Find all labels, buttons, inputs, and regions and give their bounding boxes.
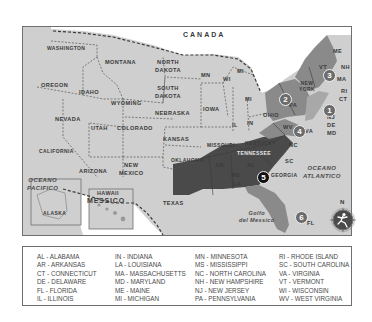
state-label-mi-lower: MI xyxy=(245,97,252,103)
mexico-label: MESSICO xyxy=(87,197,125,204)
legend-item: ME - MAINE xyxy=(115,287,186,295)
state-label-ma: MA xyxy=(337,77,347,83)
state-label-arizona: ARIZONA xyxy=(79,169,107,175)
compass-rose-icon xyxy=(326,200,360,244)
compass-north-label: N xyxy=(340,199,345,205)
state-label-nevada: NEVADA xyxy=(55,117,81,123)
state-label-montana: MONTANA xyxy=(105,60,136,66)
state-label-ct: CT xyxy=(339,97,347,103)
state-label-md: MD xyxy=(327,131,337,137)
state-label-kansas: KANSAS xyxy=(163,137,189,143)
south-dakota-line-2: DAKOTA xyxy=(155,94,181,100)
state-abbreviation-legend: AL - ALABAMA AR - ARKANSAS CT - CONNECTI… xyxy=(22,246,352,306)
state-label-washington: WASHINGTON xyxy=(47,46,85,51)
state-label-south-dakota: SOUTH DAKOTA xyxy=(155,86,181,99)
north-dakota-line-2: DAKOTA xyxy=(155,68,181,74)
legend-item: NJ - NEW JERSEY xyxy=(195,287,266,295)
legend-item: MA - MASSACHUSETTS xyxy=(115,270,186,278)
new-mexico-line-2: MEXICO xyxy=(119,171,143,177)
new-york-line-2: YORK xyxy=(299,87,315,92)
legend-item: MI - MICHIGAN xyxy=(115,295,186,303)
state-label-georgia: GEORGIA xyxy=(271,173,297,178)
state-label-fl: FL xyxy=(307,221,315,227)
pacific-line-1: OCEANO xyxy=(27,177,58,183)
legend-item: VT - VERMONT xyxy=(279,278,349,286)
atlantic-line-2: ATLANTICO xyxy=(303,173,341,179)
state-label-new-mexico: NEW MEXICO xyxy=(119,163,143,176)
legend-column-2: IN - INDIANA LA - LOUISIANA MA - MASSACH… xyxy=(115,253,186,303)
state-label-alaska: ALASKA xyxy=(43,211,66,216)
pacific-line-2: PACIFICO xyxy=(27,185,58,191)
state-label-nc: NC xyxy=(289,143,298,149)
state-label-ohio: OHIO xyxy=(263,113,279,119)
state-label-ms: MS xyxy=(231,173,240,179)
state-label-nebraska: NEBRASKA xyxy=(155,111,190,117)
pacific-ocean-label: OCEANO PACIFICO xyxy=(27,177,58,191)
state-label-ri: RI xyxy=(341,89,347,95)
state-label-sc: SC xyxy=(285,159,294,165)
region-badge-3: 3 xyxy=(323,69,336,82)
region-badge-2: 2 xyxy=(279,93,292,106)
state-label-la: LA xyxy=(233,182,241,188)
legend-item: LA - LOUISIANA xyxy=(115,261,186,269)
legend-item: WV - WEST VIRGINIA xyxy=(279,295,349,303)
state-label-al: AL xyxy=(247,163,255,169)
new-mexico-line-1: NEW xyxy=(119,163,143,169)
legend-column-4: RI - RHODE ISLAND SC - SOUTH CAROLINA VA… xyxy=(279,253,349,303)
state-label-me: ME xyxy=(333,49,342,55)
legend-item: SC - SOUTH CAROLINA xyxy=(279,261,349,269)
state-label-oklahoma: OKLAHOMA xyxy=(171,158,204,163)
state-label-ar: AR xyxy=(215,163,224,169)
legend-item: CT - CONNECTICUT xyxy=(37,270,97,278)
region-badge-4: 4 xyxy=(293,125,306,138)
region-badge-5: 5 xyxy=(257,171,270,184)
us-map: CANADA MESSICO OCEANO PACIFICO OCEANO AT… xyxy=(22,26,352,236)
state-label-idaho: IDAHO xyxy=(79,90,99,96)
legend-item: NH - NEW HAMPSHIRE xyxy=(195,278,266,286)
legend-item: IN - INDIANA xyxy=(115,253,186,261)
state-label-wyoming: WYOMING xyxy=(111,101,142,107)
gulf-line-2: del Messico xyxy=(239,218,275,224)
canada-label: CANADA xyxy=(183,31,225,38)
legend-item: FL - FLORIDA xyxy=(37,287,97,295)
legend-item: AL - ALABAMA xyxy=(37,253,97,261)
atlantic-ocean-label: OCEANO ATLANTICO xyxy=(303,165,341,179)
legend-column-3: MN - MINNESOTA MS - MISSISSIPPI NC - NOR… xyxy=(195,253,266,303)
legend-item: MS - MISSISSIPPI xyxy=(195,261,266,269)
region-badge-1: 1 xyxy=(323,104,336,117)
north-dakota-line-1: NORTH xyxy=(155,60,181,66)
legend-item: WI - WISCONSIN xyxy=(279,287,349,295)
state-label-nh: NH xyxy=(341,65,350,71)
state-label-va: VA xyxy=(305,129,313,135)
state-label-wi: WI xyxy=(223,77,231,83)
state-label-kentucky: KENTUCKY xyxy=(245,141,276,146)
atlantic-line-1: OCEANO xyxy=(303,165,341,171)
state-label-new-york: NEW YORK xyxy=(299,81,315,92)
south-dakota-line-1: SOUTH xyxy=(155,86,181,92)
legend-item: DE - DELAWARE xyxy=(37,278,97,286)
legend-item: MN - MINNESOTA xyxy=(195,253,266,261)
gulf-line-1: Golfo xyxy=(239,211,275,217)
state-label-california: CALIFORNIA xyxy=(39,149,74,154)
state-label-missouri: MISSOURI xyxy=(207,143,235,148)
legend-item: AR - ARKANSAS xyxy=(37,261,97,269)
state-label-colorado: COLORADO xyxy=(117,126,153,132)
legend-item: NC - NORTH CAROLINA xyxy=(195,270,266,278)
state-label-mi-upper: MI xyxy=(237,69,244,75)
state-label-oregon: OREGON xyxy=(41,83,68,89)
state-label-texas: TEXAS xyxy=(163,201,184,207)
legend-item: IL - ILLINOIS xyxy=(37,295,97,303)
legend-item: MD - MARYLAND xyxy=(115,278,186,286)
gulf-label: Golfo del Messico xyxy=(239,211,275,223)
state-label-in: IN xyxy=(247,121,253,127)
legend-column-1: AL - ALABAMA AR - ARKANSAS CT - CONNECTI… xyxy=(37,253,97,303)
state-label-il: IL xyxy=(232,123,238,129)
state-label-mn: MN xyxy=(201,73,211,79)
state-label-utah: UTAH xyxy=(91,126,108,132)
state-label-north-dakota: NORTH DAKOTA xyxy=(155,60,181,73)
legend-item: RI - RHODE ISLAND xyxy=(279,253,349,261)
state-label-hawaii: HAWAII xyxy=(97,191,119,197)
state-label-tennessee: TENNESSEE xyxy=(237,151,271,156)
state-label-wv: WV xyxy=(283,125,293,131)
region-badge-6: 6 xyxy=(295,211,308,224)
